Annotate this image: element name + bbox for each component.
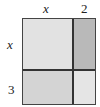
left-label-x: x [7,38,13,51]
cell-x-by-3 [23,70,73,104]
cell-2-by-x [73,19,95,70]
area-model-grid [22,18,96,105]
cell-x-by-x [23,19,73,70]
top-label-x: x [43,2,49,15]
horizontal-divider [23,69,95,71]
left-label-3: 3 [8,83,15,96]
cell-2-by-3 [73,70,95,104]
vertical-divider [72,19,74,104]
top-label-2: 2 [81,2,88,15]
